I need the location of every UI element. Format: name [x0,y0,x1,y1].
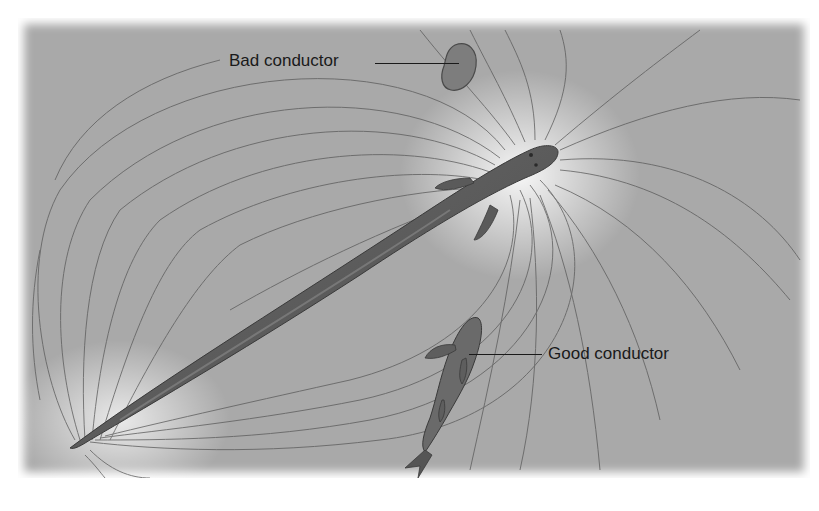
leader-line-good [469,354,542,355]
leader-line-bad [375,63,459,64]
field-illustration [18,18,810,478]
label-bad-conductor: Bad conductor [229,51,339,71]
small-fish-good-conductor [405,317,482,478]
label-good-conductor: Good conductor [548,344,669,364]
diagram-panel: Bad conductor Good conductor [18,18,810,478]
